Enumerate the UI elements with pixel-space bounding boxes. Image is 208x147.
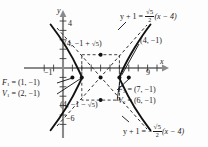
eq-bottom-lhs: y + 1 = − bbox=[123, 127, 153, 136]
y-axis-label: y bbox=[57, 7, 61, 15]
covertex-bottom-radical: √5 bbox=[88, 101, 95, 109]
leader-center bbox=[122, 44, 140, 76]
covertex-top-suffix: ) bbox=[99, 39, 102, 48]
vertex-2-label: V2 = (6, −1) bbox=[118, 97, 156, 105]
asymptote-positive-equation: y + 1 = √52(x − 4) bbox=[120, 9, 177, 24]
hyperbola-figure: y + 1 = √52(x − 4) y + 1 = −√52(x − 4) F… bbox=[0, 0, 208, 147]
x-tick-label-9: 9 bbox=[146, 69, 150, 77]
eq-bottom-denominator: 2 bbox=[153, 132, 162, 138]
covertex-top-prefix: (4, −1 + bbox=[64, 39, 92, 48]
eq-top-numerator: √5 bbox=[145, 9, 154, 17]
covertex-bottom-suffix: ) bbox=[95, 100, 98, 109]
y-tick-label-neg6: −6 bbox=[66, 115, 75, 123]
leader-eq-bottom bbox=[122, 116, 129, 122]
covertex-bottom-label: (4, −1 − √5) bbox=[60, 101, 98, 109]
vertex-1-value: = (2, −1) bbox=[9, 89, 39, 98]
point-vertex-2 bbox=[117, 75, 121, 79]
y-tick-label-4: 4 bbox=[68, 20, 72, 28]
center-point-label: (4, −1) bbox=[140, 37, 162, 45]
eq-bottom-numerator: √5 bbox=[153, 124, 162, 132]
covertex-top-radical: √5 bbox=[92, 40, 99, 48]
focus-2-value: = (7, −1) bbox=[125, 85, 155, 94]
eq-top-denominator: 2 bbox=[145, 17, 154, 23]
eq-bottom-rhs: (x − 4) bbox=[162, 127, 184, 136]
focus-1-label: F1 = (1, −1) bbox=[2, 79, 40, 87]
eq-top-lhs: y + 1 = bbox=[120, 12, 145, 21]
point-covertex-top bbox=[99, 53, 103, 57]
eq-top-fraction: √52 bbox=[145, 9, 154, 24]
x-tick-label-neg1: −1 bbox=[44, 69, 53, 77]
eq-bottom-fraction: √52 bbox=[153, 124, 162, 139]
vertex-1-label: V1 = (2, −1) bbox=[2, 90, 40, 98]
focus-1-value: = (1, −1) bbox=[9, 78, 39, 87]
focus-2-label: F2 = (7, −1) bbox=[118, 86, 156, 94]
leader-f1 bbox=[57, 78, 71, 83]
asymptote-negative-equation: y + 1 = −√52(x − 4) bbox=[123, 124, 184, 139]
covertex-bottom-prefix: (4, −1 − bbox=[60, 100, 88, 109]
plotted-points bbox=[70, 53, 130, 102]
vertex-2-value: = (6, −1) bbox=[125, 96, 155, 105]
covertex-top-label: (4, −1 + √5) bbox=[64, 40, 102, 48]
eq-top-rhs: (x − 4) bbox=[154, 12, 176, 21]
x-axis-label: x bbox=[160, 58, 164, 66]
point-covertex-bottom bbox=[99, 98, 103, 102]
point-center bbox=[99, 75, 103, 79]
